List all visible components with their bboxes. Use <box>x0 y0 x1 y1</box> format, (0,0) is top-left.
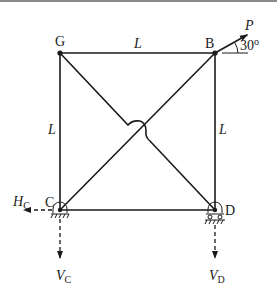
node-label-g: G <box>55 34 65 49</box>
length-label-right: L <box>218 122 227 137</box>
node-label-c: C <box>45 195 54 210</box>
angle-arc <box>235 43 238 53</box>
truss-drawing: G B C D L L L P 30o HC VC VD <box>0 0 277 295</box>
load-label-p: P <box>244 18 254 33</box>
angle-label: 30o <box>240 36 259 53</box>
node-g <box>57 50 62 55</box>
node-label-d: D <box>225 203 235 218</box>
length-label-top: L <box>133 36 142 51</box>
node-label-b: B <box>205 36 214 51</box>
reaction-label-hc: HC <box>12 194 30 211</box>
truss-diagram: G B C D L L L P 30o HC VC VD <box>0 0 277 295</box>
length-label-left: L <box>47 122 56 137</box>
reaction-label-vc: VC <box>56 268 72 285</box>
reaction-label-vd: VD <box>209 268 225 285</box>
